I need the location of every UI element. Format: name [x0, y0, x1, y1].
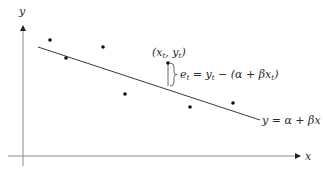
residual-brace-icon [170, 63, 177, 86]
data-point [48, 38, 52, 42]
data-point [188, 105, 192, 109]
x-axis-label: x [305, 150, 312, 163]
regression-line-label: y = α + βx [261, 114, 321, 127]
data-point [231, 101, 235, 105]
residual-equation: et = yt − (α + βxt) [180, 68, 278, 82]
highlighted-data-point [166, 61, 170, 65]
data-point [123, 92, 127, 96]
data-point [101, 45, 105, 49]
regression-line [38, 47, 260, 120]
data-point [64, 56, 68, 60]
regression-diagram: y x y = α + βx (xt, yt) et = yt − (α + β… [0, 0, 323, 183]
y-axis-label: y [18, 5, 26, 18]
highlighted-point-label: (xt, yt) [152, 46, 186, 60]
